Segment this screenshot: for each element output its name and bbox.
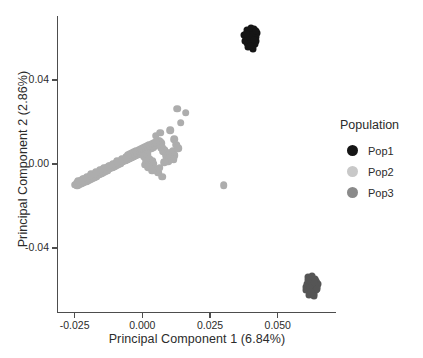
scatter-point — [152, 132, 160, 140]
y-tick-label: 0.04 — [9, 73, 49, 85]
scatter-point — [309, 273, 316, 280]
scatter-point — [220, 181, 228, 189]
pca-scatter-chart: Principal Component 2 (2.86%) Principal … — [0, 0, 423, 358]
x-tick-label: 0.050 — [253, 319, 303, 331]
scatter-point — [174, 145, 182, 153]
scatter-point — [243, 30, 250, 37]
plot-area — [57, 16, 336, 312]
x-axis-title: Principal Component 1 (6.84%) — [57, 332, 337, 346]
x-tick-label: 0.025 — [185, 319, 235, 331]
legend-item-label: Pop2 — [368, 166, 394, 178]
legend-title: Population — [340, 118, 423, 132]
legend-item-pop3[interactable]: Pop3 — [340, 182, 423, 203]
legend-swatch-icon — [347, 145, 358, 156]
scatter-point — [170, 156, 178, 164]
scatter-point — [253, 27, 260, 34]
legend-swatch-icon — [347, 187, 358, 198]
scatter-point — [160, 159, 168, 167]
legend-item-pop1[interactable]: Pop1 — [340, 140, 423, 161]
scatter-point — [177, 119, 185, 127]
x-tick-mark — [74, 313, 75, 318]
x-tick-mark — [209, 313, 210, 318]
legend-item-label: Pop3 — [368, 187, 394, 199]
x-tick-label: -0.025 — [50, 319, 100, 331]
scatter-point — [173, 105, 181, 113]
scatter-point — [159, 173, 167, 181]
scatter-point — [124, 151, 132, 159]
y-tick-label: 0.00 — [9, 157, 49, 169]
scatter-point — [247, 43, 254, 50]
scatter-point — [308, 289, 315, 296]
scatter-point — [167, 127, 175, 135]
legend-entries: Pop1Pop2Pop3 — [340, 140, 423, 203]
scatter-point — [182, 109, 190, 117]
legend: Population Pop1Pop2Pop3 — [340, 118, 423, 203]
x-tick-label: 0.000 — [117, 319, 167, 331]
x-tick-mark — [142, 313, 143, 318]
y-tick-label: -0.04 — [9, 241, 49, 253]
x-axis-line — [57, 312, 336, 313]
x-tick-mark — [277, 313, 278, 318]
scatter-point — [148, 167, 156, 175]
legend-item-label: Pop1 — [368, 145, 394, 157]
legend-swatch-icon — [347, 166, 358, 177]
legend-item-pop2[interactable]: Pop2 — [340, 161, 423, 182]
